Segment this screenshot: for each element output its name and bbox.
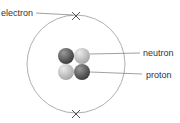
neutron-particle [58,64,74,80]
electron-top-icon [72,12,80,20]
electron-bottom-icon [72,110,80,118]
neutron-leader-line [90,53,140,54]
electron-orbit [27,15,125,113]
proton-leader-line [90,72,142,74]
proton-particle [74,64,90,80]
proton-label: proton [146,70,172,80]
atom-diagram: electron neutron proton [0,0,180,123]
neutron-particle [74,48,90,64]
nucleus [58,48,90,80]
neutron-label: neutron [143,48,174,58]
proton-particle [58,48,74,64]
electron-label: electron [1,8,33,18]
electron-leader-line [36,13,73,15]
